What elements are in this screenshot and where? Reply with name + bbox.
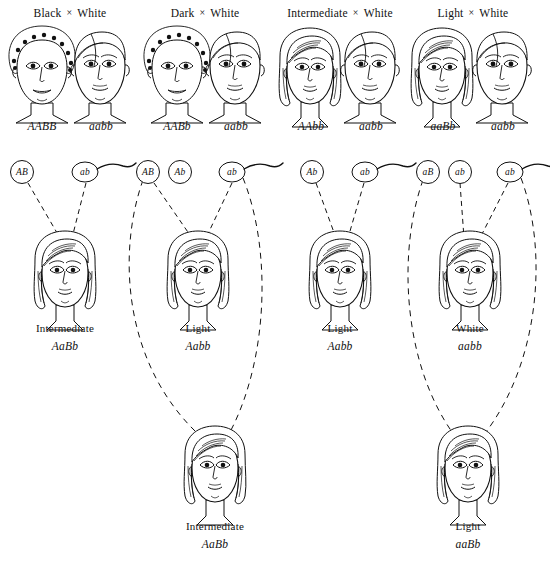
f2-genotype-2: AaBb — [202, 538, 228, 550]
gamete-text: ab — [80, 167, 90, 177]
parent-genotype-4-mother: aabb — [491, 120, 515, 132]
gamete-text: Ab — [307, 167, 318, 177]
inheritance-line-3b — [348, 183, 364, 238]
parent-genotype-1-father: AABB — [28, 120, 57, 132]
f2-phenotype-2: Intermediate — [186, 520, 244, 532]
inheritance-line-1b — [72, 183, 86, 238]
parent-face-black-AABB — [9, 26, 75, 123]
gamete-text: AB — [16, 167, 28, 177]
parent-face-white-aabb-4 — [473, 32, 532, 123]
gamete-text: ab — [360, 167, 370, 177]
gamete-text: ab — [505, 167, 515, 177]
parent-face-dark-AABb — [144, 26, 210, 123]
f2-inheritance-curve-2-left — [129, 180, 196, 432]
offspring-genotype-2: Aabb — [185, 340, 210, 352]
offspring-face-light-Aabb-2 — [309, 231, 371, 330]
offspring-genotype-4: aabb — [458, 340, 482, 352]
gamete-text: aB — [423, 167, 434, 177]
parent-face-white-aabb-3 — [341, 32, 400, 123]
inheritance-line-2b — [206, 183, 232, 238]
parent-face-light-aaBb — [411, 28, 473, 127]
offspring-phenotype-4: White — [456, 322, 484, 334]
gamete-text: Ab — [175, 167, 186, 177]
gamete-text: ab — [455, 167, 465, 177]
gamete-text: AB — [142, 167, 154, 177]
offspring-phenotype-2: Light — [186, 322, 211, 334]
offspring-genotype-1: AaBb — [52, 340, 78, 352]
gamete-text: ab — [227, 167, 237, 177]
f2-inheritance-curve-2-right — [230, 178, 262, 432]
parent-face-intermediate-AAbb — [279, 28, 341, 127]
parent-genotype-2-father: AABb — [163, 120, 191, 132]
inheritance-line-4a — [460, 183, 464, 238]
inheritance-line-3a — [316, 183, 336, 238]
parent-genotype-3-mother: aabb — [359, 120, 383, 132]
parent-face-white-aabb-1 — [71, 32, 130, 123]
parent-genotype-2-mother: aabb — [224, 120, 248, 132]
inheritance-line-1a — [28, 183, 60, 238]
parent-genotype-1-mother: aabb — [89, 120, 113, 132]
offspring-face-white-aabb — [439, 231, 501, 330]
f2-genotype-4: aaBb — [455, 538, 480, 550]
offspring-phenotype-3: Light — [328, 322, 353, 334]
inheritance-line-2a — [154, 183, 192, 238]
parent-genotype-4-father: aaBb — [430, 120, 455, 132]
genetics-inheritance-diagram: Black×White Dark×White Intermediate×Whit… — [0, 0, 550, 562]
inheritance-line-4b — [480, 183, 508, 238]
f2-face-light-aaBb — [437, 426, 499, 525]
f2-phenotype-4: Light — [456, 520, 481, 532]
f2-face-intermediate-AaBb — [184, 426, 246, 525]
parent-genotype-3-father: AAbb — [298, 120, 324, 132]
offspring-face-intermediate-AaBb-1 — [34, 231, 96, 330]
offspring-phenotype-1: Intermediate — [36, 322, 94, 334]
offspring-face-light-Aabb-1 — [167, 231, 229, 330]
offspring-genotype-3: Aabb — [327, 340, 352, 352]
parent-face-white-aabb-2 — [206, 32, 265, 123]
